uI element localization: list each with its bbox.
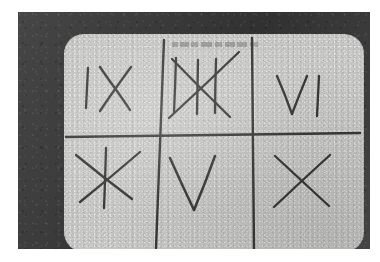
mark-stroke-vertical — [86, 68, 88, 108]
cell-top-left-marks — [86, 67, 131, 111]
mark-i-vertical — [317, 76, 319, 116]
mark-x-diagonal-up — [80, 152, 140, 202]
photo-canvas — [0, 0, 380, 262]
mark-cross-diagonal-up — [169, 52, 239, 118]
cell-bottom-middle-marks — [170, 156, 215, 210]
cell-top-middle-marks — [169, 52, 239, 118]
grid-line-horizontal-mid — [66, 133, 360, 137]
tic-tac-toe-board — [64, 34, 364, 249]
mark-tally-2 — [197, 60, 198, 114]
grid-lines — [66, 38, 360, 249]
grid-line-vertical-left — [156, 40, 164, 248]
cell-top-right-marks — [277, 76, 319, 116]
mark-tally-1 — [174, 58, 176, 112]
mark-v-right — [194, 156, 215, 210]
cell-bottom-left-marks — [76, 148, 140, 208]
mark-v-left — [170, 158, 194, 210]
cell-bottom-right-marks — [274, 155, 330, 207]
grid-line-vertical-right — [252, 38, 254, 249]
mark-v-right — [292, 76, 307, 114]
mark-tally-3 — [215, 59, 216, 113]
photo-frame-border — [18, 12, 370, 249]
mark-v-left — [277, 76, 292, 114]
ink-drawing-layer — [64, 34, 364, 249]
mark-strike-vertical — [104, 148, 106, 208]
